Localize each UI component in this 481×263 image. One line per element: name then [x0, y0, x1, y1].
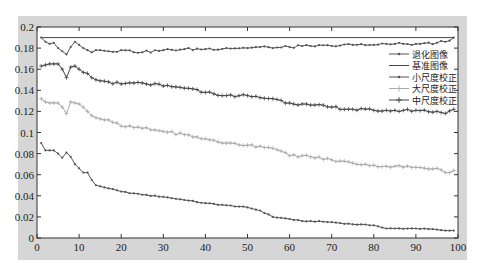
legend-label: 大尺度校正	[412, 83, 457, 94]
legend-label: 小尺度校正	[412, 72, 457, 83]
x-tick-label: 0	[34, 241, 40, 253]
x-tick-label: 70	[326, 241, 338, 253]
x-tick-label: 30	[158, 241, 170, 253]
y-tick-label: 0.12	[15, 105, 34, 117]
x-tick-label: 90	[410, 241, 422, 253]
y-tick-label: 0.16	[15, 63, 35, 75]
x-tick-label: 80	[368, 241, 380, 253]
y-tick-label: 0.18	[15, 42, 35, 54]
y-tick-label: 0.14	[15, 84, 35, 96]
y-tick-label: 0.02	[15, 211, 34, 223]
y-tick-label: 0.06	[15, 169, 35, 181]
chart-canvas: 0102030405060708090100 00.020.040.060.08…	[0, 0, 481, 263]
x-tick-label: 60	[284, 241, 296, 253]
x-tick-label: 100	[450, 241, 467, 253]
y-tick-label: 0.2	[20, 21, 34, 33]
x-tick-label: 10	[74, 241, 86, 253]
x-tick-label: 20	[116, 241, 128, 253]
x-tick-label: 40	[200, 241, 212, 253]
y-tick-label: 0.04	[15, 190, 35, 202]
x-tick-label: 50	[242, 241, 254, 253]
legend-label: 基准图像	[412, 60, 448, 71]
legend-label: 退化图像	[412, 49, 448, 60]
y-tick-label: 0.08	[15, 148, 35, 160]
legend-label: 中尺度校正	[412, 95, 457, 106]
line-chart-figure: 0102030405060708090100 00.020.040.060.08…	[0, 0, 481, 263]
y-tick-label: 0.1	[20, 127, 34, 139]
y-tick-label: 0	[29, 232, 35, 244]
